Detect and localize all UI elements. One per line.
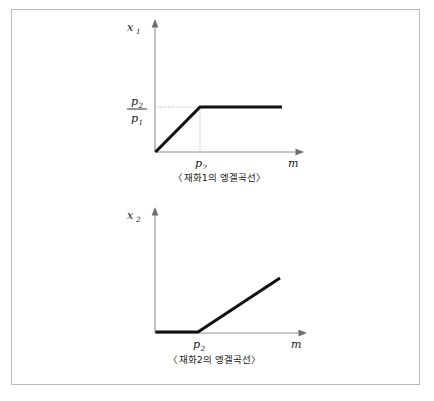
x-tick-label-subscript: 2 — [202, 163, 208, 169]
y-axis-label-base: x — [127, 21, 134, 34]
y-axis-label-base: x — [127, 209, 134, 222]
figure-1-caption: 〈재화1의 엥겔곡선〉 — [110, 170, 330, 184]
engel-curve-line — [156, 278, 281, 332]
y-axis-label-subscript: 2 — [135, 215, 141, 224]
engel-curve-good-1-figure: x 1 m p 2 p 1 p 2 〈재화1의 엥겔곡선〉 — [110, 14, 330, 194]
y-tick-label-fraction: p 2 p 1 — [127, 95, 147, 127]
engel-curve-good-1-plot: x 1 m p 2 p 1 p 2 — [110, 14, 330, 169]
y-axis-arrowhead — [152, 207, 159, 216]
x-tick-label-p2: p 2 — [195, 157, 208, 169]
figure-page: x 1 m p 2 p 1 p 2 〈재화1의 엥겔곡선〉 — [0, 0, 434, 401]
x-axis-label: m — [291, 338, 301, 351]
x-tick-label-base: p — [195, 157, 202, 169]
y-axis-arrowhead — [152, 19, 159, 28]
fraction-numerator-base: p — [131, 95, 138, 108]
figure-2-caption: 〈재화2의 엥겔곡선〉 — [100, 352, 330, 366]
engel-curve-line — [156, 107, 283, 152]
fraction-denominator-subscript: 1 — [139, 118, 144, 127]
x-tick-label-base: p — [193, 338, 200, 351]
x-tick-label-p2: p 2 — [193, 338, 206, 351]
x-tick-label-subscript: 2 — [200, 344, 206, 351]
y-axis-label-subscript: 1 — [136, 27, 141, 36]
engel-curve-good-2-figure: x 2 m p 2 〈재화2의 엥겔곡선〉 — [100, 196, 330, 376]
x-axis-arrowhead — [299, 330, 308, 337]
x-axis-arrowhead — [296, 149, 305, 156]
engel-curve-good-2-plot: x 2 m p 2 — [100, 196, 330, 351]
fraction-denominator-base: p — [131, 112, 138, 125]
x-axis-label: m — [288, 157, 298, 169]
